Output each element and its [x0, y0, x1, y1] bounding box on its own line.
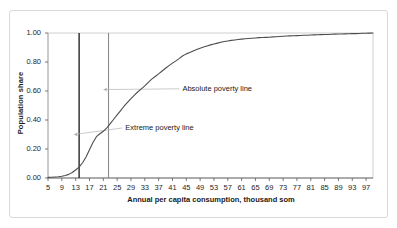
chart-plot-canvas [0, 0, 397, 228]
x-axis-title: Annual per capita consumption, thousand … [78, 195, 344, 204]
y-axis-title: Population share [14, 55, 28, 151]
plot-frame [48, 33, 373, 178]
y-tick-label: 0.60 [15, 87, 41, 95]
y-axis-title-wrap: Population share [14, 55, 28, 150]
y-tick-label: 0.20 [15, 145, 41, 153]
chart-figure: Population share 0.000.200.400.600.801.0… [0, 0, 397, 228]
plot-background [48, 33, 373, 178]
x-tick-label: 97 [357, 184, 375, 192]
y-tick-label: 0.80 [15, 58, 41, 66]
y-tick-label: 1.00 [15, 29, 41, 37]
absolute-poverty-line-label: Absolute poverty line [182, 84, 252, 93]
y-tick-label: 0.40 [15, 116, 41, 124]
y-tick-label: 0.00 [15, 174, 41, 182]
extreme-poverty-line-label: Extreme poverty line [125, 123, 193, 132]
